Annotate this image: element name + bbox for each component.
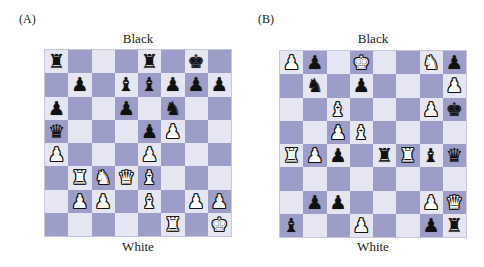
- square-b2: ♟: [303, 191, 326, 214]
- black-pawn-icon: ♟: [353, 76, 370, 95]
- white-king-icon: ♚: [353, 53, 370, 72]
- square-g4: ♝: [420, 144, 443, 167]
- white-pawn-icon: ♟: [71, 192, 88, 211]
- white-king-icon: ♚: [211, 215, 228, 234]
- square-h2: ♟: [208, 190, 231, 213]
- square-f4: ♜: [396, 144, 419, 167]
- black-pawn-icon: ♟: [141, 122, 158, 141]
- square-h4: ♛: [443, 144, 466, 167]
- square-d5: ♝: [350, 121, 373, 144]
- black-bishop-icon: ♝: [283, 216, 300, 235]
- black-rook-icon: ♜: [376, 146, 393, 165]
- black-pawn-icon: ♟: [423, 216, 440, 235]
- square-b8: [68, 50, 91, 73]
- black-bishop-icon: ♝: [141, 75, 158, 94]
- square-d4: [350, 144, 373, 167]
- square-h6: [208, 97, 231, 120]
- square-e6: [138, 97, 161, 120]
- square-c1: [327, 214, 350, 237]
- square-a7: [45, 73, 68, 96]
- square-b5: [68, 120, 91, 143]
- black-side-label-a: Black: [45, 31, 231, 47]
- black-knight-icon: ♞: [164, 99, 181, 118]
- white-rook-icon: ♜: [164, 215, 181, 234]
- square-g6: [185, 97, 208, 120]
- square-h6: ♚: [443, 98, 466, 121]
- square-e7: ♝: [138, 73, 161, 96]
- square-c5: ♟: [327, 121, 350, 144]
- square-e5: ♟: [138, 120, 161, 143]
- black-pawn-icon: ♟: [330, 193, 347, 212]
- white-pawn-icon: ♟: [283, 53, 300, 72]
- white-pawn-icon: ♟: [141, 145, 158, 164]
- square-d2: [350, 191, 373, 214]
- square-a4: ♜: [280, 144, 303, 167]
- square-h5: [443, 121, 466, 144]
- black-queen-icon: ♛: [48, 122, 65, 141]
- square-h1: ♚: [208, 213, 231, 236]
- white-pawn-icon: ♟: [48, 145, 65, 164]
- white-pawn-icon: ♟: [423, 193, 440, 212]
- square-d3: ♛: [115, 166, 138, 189]
- square-g5: [420, 121, 443, 144]
- black-pawn-icon: ♟: [48, 99, 65, 118]
- white-pawn-icon: ♟: [353, 216, 370, 235]
- square-a8: ♟: [280, 51, 303, 74]
- square-a3: [45, 166, 68, 189]
- square-d8: ♚: [350, 51, 373, 74]
- square-c7: [327, 74, 350, 97]
- square-e5: [373, 121, 396, 144]
- black-rook-icon: ♜: [141, 52, 158, 71]
- square-e1: [138, 213, 161, 236]
- square-b8: ♟: [303, 51, 326, 74]
- black-pawn-icon: ♟: [188, 75, 205, 94]
- black-pawn-icon: ♟: [330, 146, 347, 165]
- square-a4: ♟: [45, 143, 68, 166]
- square-d1: ♟: [350, 214, 373, 237]
- square-c6: ♝: [327, 98, 350, 121]
- square-f1: ♜: [161, 213, 184, 236]
- white-queen-icon: ♛: [118, 168, 135, 187]
- square-f7: [396, 74, 419, 97]
- square-f3: [396, 167, 419, 190]
- white-pawn-icon: ♟: [306, 146, 323, 165]
- square-h8: ♟: [443, 51, 466, 74]
- square-e4: ♜: [373, 144, 396, 167]
- square-c3: ♞: [92, 166, 115, 189]
- white-rook-icon: ♜: [399, 146, 416, 165]
- square-g4: [185, 143, 208, 166]
- square-d5: [115, 120, 138, 143]
- square-h2: ♛: [443, 191, 466, 214]
- square-d7: ♝: [115, 73, 138, 96]
- black-queen-icon: ♛: [446, 146, 463, 165]
- square-f8: [396, 51, 419, 74]
- white-bishop-icon: ♝: [353, 123, 370, 142]
- square-a5: [280, 121, 303, 144]
- square-d1: [115, 213, 138, 236]
- black-rook-icon: ♜: [48, 52, 65, 71]
- square-d3: [350, 167, 373, 190]
- square-d4: [115, 143, 138, 166]
- white-pawn-icon: ♟: [95, 192, 112, 211]
- white-rook-icon: ♜: [71, 168, 88, 187]
- panel-label-b: (B): [258, 12, 274, 27]
- white-bishop-icon: ♝: [330, 100, 347, 119]
- square-g3: [420, 167, 443, 190]
- square-g2: ♟: [420, 191, 443, 214]
- white-knight-icon: ♞: [423, 53, 440, 72]
- square-e6: [373, 98, 396, 121]
- square-a8: ♜: [45, 50, 68, 73]
- white-bishop-icon: ♝: [141, 168, 158, 187]
- square-h4: [208, 143, 231, 166]
- square-b3: ♜: [68, 166, 91, 189]
- square-g6: ♟: [420, 98, 443, 121]
- chessboard-a: ♜♜♚♟♝♝♟♟♟♟♟♞♛♟♟♟♟♜♞♛♝♟♟♝♟♟♜♚: [45, 50, 231, 236]
- square-a3: [280, 167, 303, 190]
- square-d8: [115, 50, 138, 73]
- square-c8: [92, 50, 115, 73]
- square-c4: [92, 143, 115, 166]
- square-h7: ♟: [443, 74, 466, 97]
- square-f4: [161, 143, 184, 166]
- square-c4: ♟: [327, 144, 350, 167]
- white-pawn-icon: ♟: [330, 123, 347, 142]
